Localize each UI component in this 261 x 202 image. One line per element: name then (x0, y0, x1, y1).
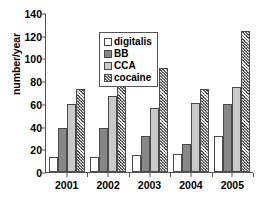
legend-item-cocaine[interactable]: cocaine (104, 72, 152, 83)
x-axis-tick-label-2005: 2005 (221, 179, 244, 191)
bar-BB-2004[interactable] (182, 144, 191, 172)
y-axis-tick-label: 40 (30, 122, 42, 134)
x-axis-tick-label-2001: 2001 (55, 179, 78, 191)
legend-label-BB: BB (114, 49, 128, 59)
x-axis-tick-mark (232, 173, 233, 177)
x-axis-tick-mark (149, 173, 150, 177)
bar-BB-2003[interactable] (141, 136, 150, 172)
legend-label-CCA: CCA (114, 61, 136, 71)
legend-item-CCA[interactable]: CCA (104, 60, 152, 71)
y-axis-tick-label: 140 (24, 8, 42, 20)
bar-CCA-2003[interactable] (150, 108, 159, 172)
legend-label-digitalis: digitalis (114, 37, 152, 47)
legend-swatch-BB (104, 50, 112, 58)
legend-item-digitalis[interactable]: digitalis (104, 36, 152, 47)
legend: digitalisBBCCAcocaine (99, 32, 158, 87)
x-axis-boundary-tick (170, 173, 171, 177)
legend-swatch-digitalis (104, 38, 112, 46)
x-axis-boundary-tick (129, 173, 130, 177)
y-axis-tick-label: 20 (30, 144, 42, 156)
bar-digitalis-2001[interactable] (49, 157, 58, 172)
bar-cocaine-2001[interactable] (76, 89, 85, 172)
legend-label-cocaine: cocaine (114, 73, 151, 83)
y-axis-title: number/year (10, 14, 22, 114)
bar-digitalis-2004[interactable] (173, 154, 182, 172)
x-axis-tick-label-2002: 2002 (96, 179, 119, 191)
x-axis-tick-mark (66, 173, 67, 177)
bar-CCA-2002[interactable] (108, 96, 117, 172)
bar-group-2001: 2001 (46, 14, 87, 172)
bar-group-2004: 2004 (170, 14, 211, 172)
bar-digitalis-2003[interactable] (132, 155, 141, 172)
x-axis-boundary-tick (253, 173, 254, 177)
bar-BB-2002[interactable] (99, 128, 108, 172)
bar-CCA-2005[interactable] (232, 87, 241, 172)
bar-chart-figure: number/year 020406080100120140 200120022… (0, 0, 261, 202)
y-axis-tick-mark (42, 173, 46, 174)
legend-swatch-CCA (104, 62, 112, 70)
plot-area: 020406080100120140 20012002200320042005 … (45, 14, 253, 173)
y-axis-tick-label: 80 (30, 76, 42, 88)
bar-CCA-2001[interactable] (67, 104, 76, 172)
bar-cocaine-2003[interactable] (159, 68, 168, 172)
legend-swatch-cocaine (104, 74, 112, 82)
x-axis-boundary-tick (87, 173, 88, 177)
x-axis-tick-mark (108, 173, 109, 177)
bar-BB-2005[interactable] (223, 104, 232, 172)
bar-digitalis-2005[interactable] (214, 136, 223, 172)
y-axis-tick-label: 100 (24, 53, 42, 65)
legend-item-BB[interactable]: BB (104, 48, 152, 59)
bar-CCA-2004[interactable] (191, 103, 200, 172)
y-axis-tick-label: 60 (30, 99, 42, 111)
bar-BB-2001[interactable] (58, 128, 67, 172)
x-axis-tick-mark (190, 173, 191, 177)
bar-digitalis-2002[interactable] (90, 157, 99, 172)
y-axis-tick-label: 120 (24, 31, 42, 43)
x-axis-tick-label-2004: 2004 (179, 179, 202, 191)
bar-cocaine-2004[interactable] (200, 89, 209, 172)
x-axis-tick-label-2003: 2003 (138, 179, 161, 191)
bar-group-2005: 2005 (212, 14, 253, 172)
bar-cocaine-2005[interactable] (241, 31, 250, 172)
x-axis-boundary-tick (212, 173, 213, 177)
